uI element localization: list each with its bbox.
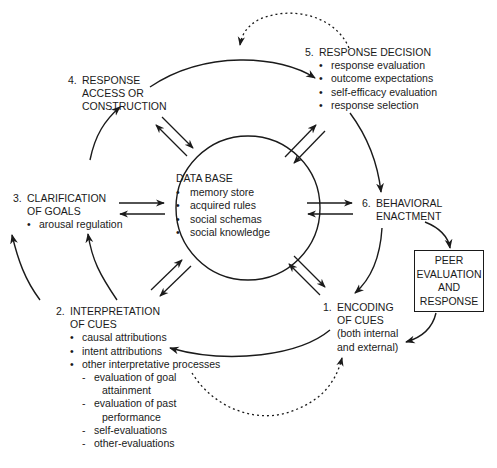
database-items: memory store acquired rules social schem… bbox=[176, 186, 270, 240]
step-title-line: RESPONSE DECISION bbox=[319, 46, 431, 59]
database-item: social schemas bbox=[176, 213, 270, 227]
step-title-line: BEHAVIORAL bbox=[376, 197, 442, 210]
arrow-database-to-4 bbox=[156, 125, 187, 156]
arrow-6-to-peer bbox=[425, 222, 450, 248]
bullet-item: response evaluation bbox=[319, 59, 437, 72]
database-title: DATA BASE bbox=[176, 172, 270, 186]
sub-item-line: other-evaluations bbox=[94, 437, 175, 449]
sub-item: evaluation of past performance bbox=[70, 397, 220, 423]
arrow-2-to-3 bbox=[88, 234, 117, 300]
step-1-encoding-of-cues: 1. ENCODING OF CUES (both internal and e… bbox=[323, 301, 398, 354]
bullet-item: response selection bbox=[319, 99, 437, 112]
sub-item: self-evaluations bbox=[70, 424, 220, 437]
sub-item: evaluation of goal attainment bbox=[70, 371, 220, 397]
arrow-peer-to-1 bbox=[406, 313, 436, 342]
step-title-line: OF CUES bbox=[70, 318, 160, 331]
diagram-canvas: DATA BASE memory store acquired rules so… bbox=[0, 0, 497, 468]
arrow-1-to-database bbox=[289, 264, 320, 295]
step-title-line: RESPONSE bbox=[82, 74, 167, 87]
step-title-line: CLARIFICATION bbox=[27, 192, 106, 205]
step-title-line: CONSTRUCTION bbox=[82, 100, 167, 113]
step-4-response-access: 4. RESPONSE ACCESS OR CONSTRUCTION bbox=[68, 74, 167, 114]
arrow-database-to-2 bbox=[160, 266, 191, 296]
step-2-interpretation-of-cues: 2. INTERPRETATION OF CUES causal attribu… bbox=[56, 305, 220, 450]
peer-box-line: PEER bbox=[415, 254, 483, 268]
sub-item-line: evaluation of past bbox=[94, 397, 176, 409]
database-item: acquired rules bbox=[176, 199, 270, 213]
arrow-3-to-4 bbox=[90, 107, 120, 160]
step-5-bullets: response evaluation outcome expectations… bbox=[305, 59, 437, 112]
step-number: 1. bbox=[323, 301, 337, 354]
database-item: social knowledge bbox=[176, 226, 270, 240]
sub-item-line: evaluation of goal bbox=[94, 371, 176, 383]
arrow-5-to-database bbox=[294, 131, 325, 163]
step-3-clarification-of-goals: 3. CLARIFICATION OF GOALS arousal regula… bbox=[13, 192, 122, 232]
step-number: 5. bbox=[305, 46, 319, 59]
step-number: 3. bbox=[13, 192, 27, 218]
sub-item-line: attainment bbox=[94, 384, 220, 397]
bullet-item: causal attributions bbox=[70, 331, 220, 344]
arrow-4-to-database bbox=[162, 117, 193, 148]
step-title-line: OF GOALS bbox=[27, 205, 106, 218]
database-node: DATA BASE memory store acquired rules so… bbox=[176, 172, 270, 240]
peer-box-line: AND bbox=[415, 281, 483, 295]
arrow-5-to-6 bbox=[350, 113, 381, 192]
arrow-2-to-database bbox=[151, 260, 182, 290]
sub-item: other-evaluations bbox=[70, 437, 220, 450]
peer-box-line: EVALUATION bbox=[415, 268, 483, 282]
step-5-response-decision: 5. RESPONSE DECISION response evaluation… bbox=[305, 46, 437, 112]
arrow-database-to-1 bbox=[294, 256, 325, 287]
dotted-arrow-5-to-4 bbox=[240, 13, 349, 48]
step-number: 4. bbox=[68, 74, 82, 114]
database-item: memory store bbox=[176, 186, 270, 200]
step-note-line: (both internal bbox=[337, 327, 398, 340]
bullet-item: self-efficacy evaluation bbox=[319, 86, 437, 99]
step-number: 2. bbox=[56, 305, 70, 331]
peer-evaluation-box: PEER EVALUATION AND RESPONSE bbox=[414, 250, 484, 312]
arrow-4-to-5 bbox=[150, 60, 315, 87]
bullet-item: intent attributions bbox=[70, 345, 220, 358]
step-note-line: and external) bbox=[337, 341, 398, 354]
bullet-item: arousal regulation bbox=[27, 218, 122, 231]
arrow-2-to-3-outer bbox=[12, 235, 40, 300]
step-title-line: ENACTMENT bbox=[376, 210, 442, 223]
step-2-bullets: causal attributions intent attributions … bbox=[56, 331, 220, 450]
step-title-line: ACCESS OR bbox=[82, 87, 167, 100]
sub-item-line: performance bbox=[94, 411, 220, 424]
step-6-behavioral-enactment: 6. BEHAVIORAL ENACTMENT bbox=[362, 197, 442, 223]
arrow-database-to-5 bbox=[285, 125, 316, 157]
sub-item-line: self-evaluations bbox=[94, 424, 167, 436]
step-number: 6. bbox=[362, 197, 376, 223]
bullet-item: other interpretative processes bbox=[70, 358, 220, 371]
step-title-line: OF CUES bbox=[337, 314, 398, 327]
arrow-6-to-1 bbox=[355, 228, 382, 293]
step-title-line: INTERPRETATION bbox=[70, 305, 160, 318]
step-title-line: ENCODING bbox=[337, 301, 398, 314]
bullet-item: outcome expectations bbox=[319, 72, 437, 85]
step-3-bullets: arousal regulation bbox=[13, 218, 122, 231]
peer-box-line: RESPONSE bbox=[415, 295, 483, 309]
